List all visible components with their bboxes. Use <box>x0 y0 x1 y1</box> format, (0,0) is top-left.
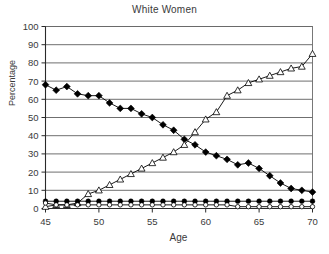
data-point-marker <box>193 203 197 207</box>
data-point-marker <box>54 203 58 207</box>
data-point-marker <box>289 204 293 208</box>
data-point-marker <box>86 203 90 207</box>
data-point-marker <box>214 203 218 207</box>
series-declining-series <box>42 81 316 195</box>
data-point-marker <box>128 105 135 112</box>
y-tick-label: 90 <box>28 39 39 50</box>
x-tick-label: 45 <box>40 216 51 227</box>
data-point-marker <box>42 81 49 88</box>
data-point-marker <box>138 110 145 117</box>
data-point-marker <box>106 100 113 107</box>
plot-area: 0102030405060708090100 455055606570 <box>0 0 329 254</box>
data-point-marker <box>225 203 229 207</box>
x-tick-label: 60 <box>200 216 211 227</box>
data-point-marker <box>149 114 156 121</box>
data-point-marker <box>234 87 241 93</box>
data-point-marker <box>224 156 231 163</box>
data-point-marker <box>192 141 199 148</box>
data-point-marker <box>202 149 209 156</box>
data-point-marker <box>266 172 273 179</box>
x-tick-label: 55 <box>147 216 158 227</box>
x-axis-ticks <box>46 209 313 213</box>
data-point-marker <box>298 187 305 194</box>
data-point-marker <box>139 203 143 207</box>
data-point-marker <box>118 203 122 207</box>
data-point-marker <box>309 189 316 196</box>
data-point-marker <box>106 181 113 187</box>
y-tick-label: 20 <box>28 167 39 178</box>
data-point-marker <box>268 204 272 208</box>
series-low-flat-series-open <box>43 201 314 209</box>
y-tick-label: 60 <box>28 94 39 105</box>
data-point-marker <box>75 203 79 207</box>
data-point-marker <box>65 203 69 207</box>
data-point-marker <box>150 203 154 207</box>
data-point-marker <box>213 152 220 159</box>
data-point-marker <box>63 83 70 90</box>
data-point-marker <box>310 199 315 204</box>
data-point-marker <box>170 149 177 155</box>
data-point-marker <box>128 171 135 177</box>
data-point-marker <box>117 105 124 112</box>
data-point-marker <box>257 204 261 208</box>
data-point-marker <box>236 204 240 208</box>
data-point-marker <box>129 203 133 207</box>
data-point-marker <box>97 203 101 207</box>
data-point-marker <box>235 199 240 204</box>
x-tick-label: 65 <box>254 216 265 227</box>
data-point-marker <box>278 204 282 208</box>
data-point-marker <box>43 201 47 205</box>
y-axis-tick-labels: 0102030405060708090100 <box>23 21 39 214</box>
data-point-marker <box>234 161 241 168</box>
data-point-marker <box>256 165 263 172</box>
data-point-marker <box>160 154 167 160</box>
data-point-marker <box>85 92 92 99</box>
y-tick-label: 100 <box>23 21 39 32</box>
data-point-marker <box>300 204 304 208</box>
series-rising-series <box>42 50 316 209</box>
data-point-marker <box>224 92 231 98</box>
data-point-marker <box>171 203 175 207</box>
gridlines <box>46 27 313 191</box>
y-tick-label: 50 <box>28 112 39 123</box>
data-point-marker <box>161 203 165 207</box>
y-tick-label: 0 <box>33 203 38 214</box>
data-point-marker <box>246 199 251 204</box>
data-point-marker <box>160 121 167 128</box>
x-tick-label: 50 <box>94 216 105 227</box>
data-point-marker <box>267 199 272 204</box>
data-point-marker <box>299 199 304 204</box>
data-point-marker <box>107 203 111 207</box>
data-point-marker <box>278 199 283 204</box>
y-tick-label: 80 <box>28 57 39 68</box>
data-point-marker <box>53 87 60 94</box>
data-point-marker <box>257 199 262 204</box>
data-point-marker <box>117 176 124 182</box>
y-tick-label: 30 <box>28 148 39 159</box>
data-point-marker <box>149 160 156 166</box>
data-point-marker <box>202 116 209 122</box>
x-tick-label: 70 <box>307 216 318 227</box>
data-point-marker <box>277 180 284 187</box>
chart-container: White Women Percentage Age 0102030405060… <box>0 0 329 254</box>
x-axis-tick-labels: 455055606570 <box>40 216 318 227</box>
data-point-marker <box>246 204 250 208</box>
data-point-marker <box>204 203 208 207</box>
y-tick-label: 70 <box>28 76 39 87</box>
y-tick-label: 40 <box>28 130 39 141</box>
data-point-marker <box>138 165 145 171</box>
series-line <box>46 203 313 207</box>
data-point-marker <box>182 203 186 207</box>
data-series-layer <box>42 50 316 209</box>
data-point-marker <box>74 90 81 97</box>
data-point-marker <box>288 185 295 192</box>
data-point-marker <box>289 199 294 204</box>
data-point-marker <box>96 92 103 99</box>
data-point-marker <box>310 204 314 208</box>
data-point-marker <box>245 160 252 167</box>
y-tick-label: 10 <box>28 185 39 196</box>
data-point-marker <box>213 109 220 115</box>
y-axis-ticks <box>42 27 46 209</box>
data-point-marker <box>309 50 316 56</box>
series-low-flat-series-filled <box>43 199 315 204</box>
